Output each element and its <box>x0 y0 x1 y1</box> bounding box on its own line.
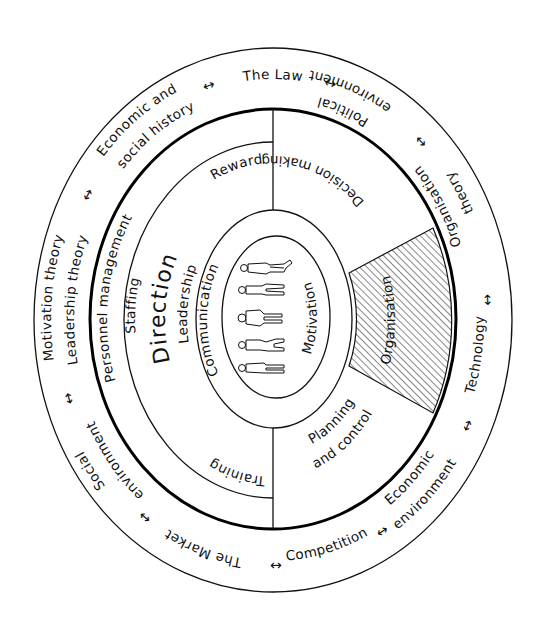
label-communication: Communication <box>194 261 222 380</box>
double-arrow-icon: ↔ <box>458 417 477 434</box>
people-figures-icon <box>238 260 292 373</box>
core-section: Communication Motivation <box>194 260 320 379</box>
label-decision-making: Decision making <box>260 153 366 210</box>
double-arrow-icon: ↔ <box>77 185 97 203</box>
label-the-law: The Law <box>241 66 304 84</box>
double-arrow-icon: ↔ <box>411 131 431 151</box>
double-arrow-icon: ↔ <box>59 390 78 406</box>
double-arrow-icon: ↔ <box>135 508 154 528</box>
label-leadership-theory: Leadership theory <box>61 233 91 367</box>
person-icon <box>239 284 285 295</box>
person-icon <box>239 339 285 351</box>
communication-ring <box>196 210 352 428</box>
label-competition: Competition <box>285 523 370 563</box>
person-icon <box>239 363 285 373</box>
person-icon <box>238 310 282 326</box>
double-arrow-icon: ↔ <box>480 293 497 306</box>
label-staffing: Staffing <box>122 276 142 334</box>
double-arrow-icon: ↔ <box>200 76 217 95</box>
double-arrow-icon: ↔ <box>270 558 282 574</box>
organisation-sector-hatched <box>349 228 452 413</box>
label-training: Training <box>206 456 267 490</box>
person-icon <box>241 260 293 274</box>
label-the-market: The Market <box>161 527 243 572</box>
label-motivation: Motivation <box>298 280 320 356</box>
double-arrow-icon: ↔ <box>373 522 392 542</box>
label-technology: Technology <box>461 316 487 397</box>
management-context-diagram: The Law Economic and social history Moti… <box>0 0 542 632</box>
